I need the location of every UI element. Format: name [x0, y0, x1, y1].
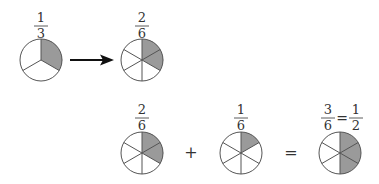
svg-text:=: = [336, 110, 348, 126]
svg-text:6: 6 [138, 118, 146, 133]
pie-thirds-one-shaded [20, 39, 62, 81]
fraction-one-sixth: 1 6 [234, 102, 248, 133]
fraction-two-sixths-top: 2 6 [135, 10, 149, 41]
svg-text:2: 2 [138, 102, 146, 117]
numerator: 1 [37, 10, 45, 25]
svg-text:6: 6 [324, 118, 332, 133]
svg-text:2: 2 [138, 10, 146, 25]
pie-sixths-two-shaded-bottom [121, 132, 163, 174]
svg-text:3: 3 [324, 102, 332, 117]
fraction-one-third: 1 3 [34, 10, 48, 41]
pie-sixths-two-shaded-top [121, 39, 163, 81]
svg-text:1: 1 [352, 102, 360, 117]
pie-sixths-three-shaded [319, 132, 361, 174]
equals-sign: = [284, 143, 297, 162]
svg-text:1: 1 [237, 102, 245, 117]
svg-text:6: 6 [237, 118, 245, 133]
svg-text:2: 2 [352, 118, 360, 133]
fraction-two-sixths-bottom: 2 6 [135, 102, 149, 133]
plus-sign: + [184, 143, 197, 162]
fraction-three-sixths-equals-half: 3 6 = 1 2 [321, 102, 363, 133]
fraction-diagram: 1 3 2 6 2 6 + [0, 0, 379, 184]
pie-sixths-one-shaded [220, 132, 262, 174]
right-arrow-icon [70, 55, 114, 66]
